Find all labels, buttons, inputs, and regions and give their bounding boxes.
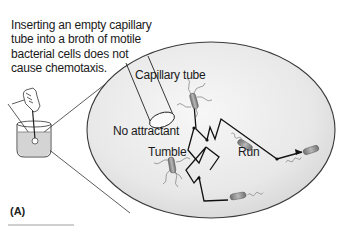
divider xyxy=(8,224,74,226)
panel-label: (A) xyxy=(10,205,25,217)
hand-icon xyxy=(12,88,40,112)
run-label: Run xyxy=(238,145,259,159)
capillary-tube-label: Capillary tube xyxy=(135,68,206,82)
figure-caption: Inserting an empty capillary tube into a… xyxy=(11,18,161,75)
tumble-label: Tumble xyxy=(148,145,186,159)
no-attractant-label: No attractant xyxy=(113,124,179,138)
